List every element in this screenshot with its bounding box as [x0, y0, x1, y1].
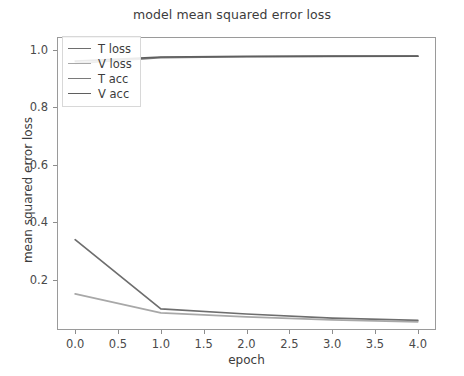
- legend-item: T acc: [68, 71, 132, 86]
- legend-item: T loss: [68, 41, 132, 56]
- x-axis-tick-label: 0.0: [53, 337, 97, 351]
- x-axis-label: epoch: [57, 353, 436, 367]
- x-axis-tick-mark: [161, 330, 162, 334]
- legend-item-label: T loss: [98, 42, 131, 56]
- legend-line-icon: [68, 93, 91, 94]
- x-axis-tick-label: 2.0: [225, 337, 269, 351]
- x-axis-tick-mark: [418, 330, 419, 334]
- x-axis-tick-label: 0.5: [96, 337, 140, 351]
- x-axis-tick-label: 1.5: [182, 337, 226, 351]
- y-axis-tick-label: 0.2: [6, 273, 48, 287]
- legend-item-label: V loss: [98, 57, 132, 71]
- y-axis-tick-label: 0.8: [6, 100, 48, 114]
- x-axis-tick-mark: [375, 330, 376, 334]
- x-axis-tick-label: 1.0: [139, 337, 183, 351]
- x-axis-tick-mark: [118, 330, 119, 334]
- x-axis-tick-mark: [204, 330, 205, 334]
- x-axis-tick-mark: [289, 330, 290, 334]
- chart-legend: T lossV lossT accV acc: [62, 36, 141, 107]
- y-axis-tick-label: 0.6: [6, 158, 48, 172]
- x-axis-tick-label: 3.5: [353, 337, 397, 351]
- legend-item: V acc: [68, 86, 132, 101]
- x-axis-tick-label: 3.0: [310, 337, 354, 351]
- x-axis-tick-label: 2.5: [267, 337, 311, 351]
- legend-line-icon: [68, 78, 91, 79]
- chart-title: model mean squared error loss: [0, 7, 464, 22]
- legend-item: V loss: [68, 56, 132, 71]
- y-axis-tick-label: 0.4: [6, 215, 48, 229]
- x-axis-tick-mark: [332, 330, 333, 334]
- x-axis-tick-mark: [247, 330, 248, 334]
- legend-item-label: T acc: [98, 72, 128, 86]
- legend-line-icon: [68, 63, 91, 64]
- x-axis-tick-mark: [75, 330, 76, 334]
- series-line: [75, 294, 418, 322]
- legend-item-label: V acc: [98, 87, 129, 101]
- x-axis-tick-label: 4.0: [396, 337, 440, 351]
- series-line: [75, 240, 418, 321]
- chart-figure: model mean squared error loss mean squar…: [0, 0, 464, 376]
- legend-line-icon: [68, 48, 91, 49]
- y-axis-tick-label: 1.0: [6, 43, 48, 57]
